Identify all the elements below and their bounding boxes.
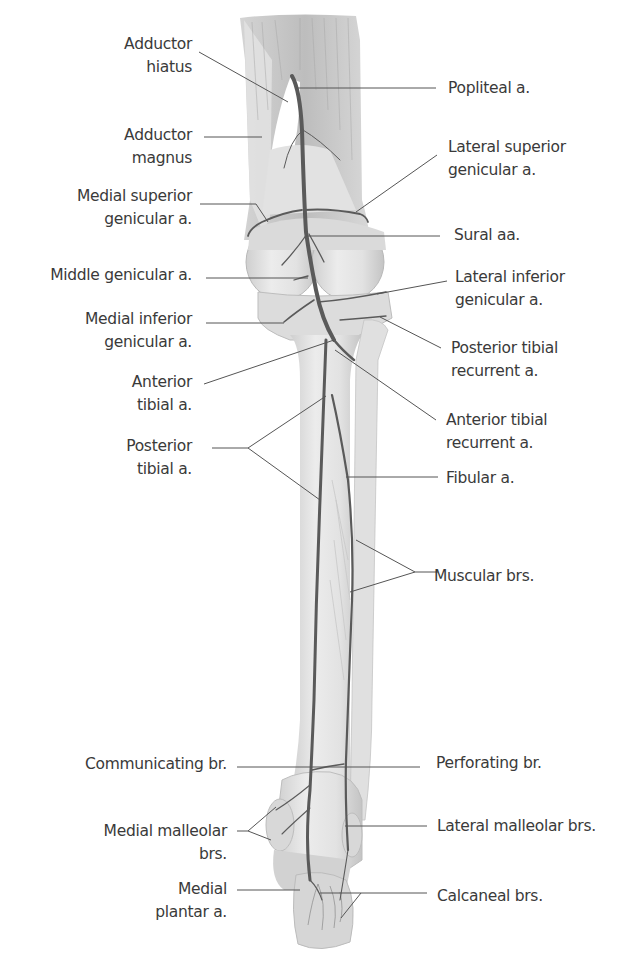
label-posterior-tibial: Posterior tibial a. <box>126 435 192 481</box>
label-lateral-inferior-genicular: Lateral inferior genicular a. <box>455 266 565 312</box>
label-medial-superior-genicular: Medial superior genicular a. <box>77 185 192 231</box>
label-lateral-superior-genicular: Lateral superior genicular a. <box>448 136 566 182</box>
label-muscular-brs: Muscular brs. <box>434 565 534 588</box>
label-adductor-hiatus: Adductor hiatus <box>124 33 192 79</box>
label-calcaneal-brs: Calcaneal brs. <box>437 885 543 908</box>
label-fibular: Fibular a. <box>446 467 514 490</box>
label-adductor-magnus: Adductor magnus <box>124 124 192 170</box>
ankle-foot <box>266 772 362 949</box>
label-medial-plantar: Medial plantar a. <box>155 878 227 924</box>
label-communicating-br: Communicating br. <box>85 753 227 776</box>
label-medial-malleolar-brs: Medial malleolar brs. <box>104 820 227 866</box>
label-popliteal: Popliteal a. <box>448 77 530 100</box>
label-anterior-tibial-recurrent: Anterior tibial recurrent a. <box>446 409 547 455</box>
leg-bones <box>290 320 388 820</box>
label-sural: Sural aa. <box>454 224 520 247</box>
label-medial-inferior-genicular: Medial inferior genicular a. <box>85 308 192 354</box>
anatomy-figure: Adductor hiatus Adductor magnus Medial s… <box>0 0 632 966</box>
label-anterior-tibial: Anterior tibial a. <box>132 371 192 417</box>
label-middle-genicular: Middle genicular a. <box>50 264 192 287</box>
label-lateral-malleolar-brs: Lateral malleolar brs. <box>437 815 596 838</box>
label-perforating-br: Perforating br. <box>436 752 542 775</box>
label-posterior-tibial-recurrent: Posterior tibial recurrent a. <box>451 337 558 383</box>
